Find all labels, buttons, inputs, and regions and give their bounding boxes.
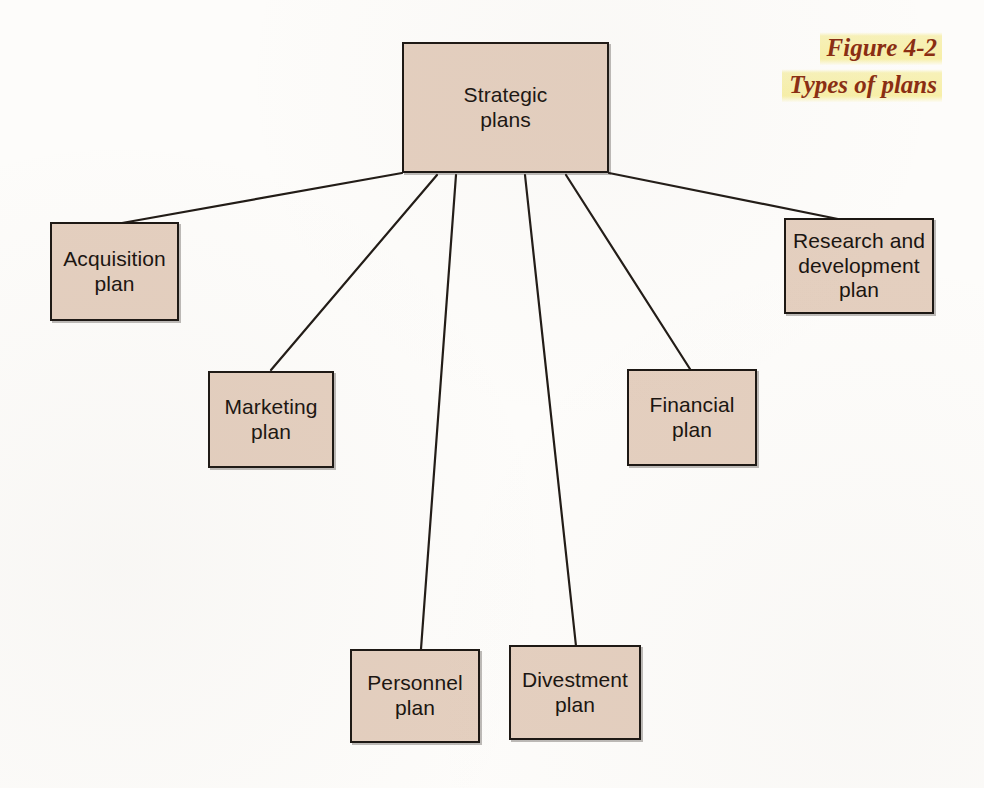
link-acquisition <box>122 173 402 223</box>
node-strategic-plans: Strategic plans <box>402 42 609 173</box>
caption-line-1: Figure 4-2 <box>782 30 942 67</box>
node-label: Acquisition plan <box>58 247 171 297</box>
node-label: Personnel plan <box>362 671 467 721</box>
node-label: Financial plan <box>645 393 740 443</box>
node-personnel-plan: Personnel plan <box>350 649 480 743</box>
link-research-development <box>609 173 838 219</box>
node-label: Research and development plan <box>788 229 930 303</box>
link-financial <box>566 175 690 369</box>
caption-line-2-text: Types of plans <box>782 67 942 104</box>
figure-container: Strategic plans Acquisition plan Marketi… <box>0 0 984 788</box>
node-acquisition-plan: Acquisition plan <box>50 222 179 321</box>
link-divestment <box>525 175 576 646</box>
link-marketing <box>271 175 437 370</box>
node-label: Marketing plan <box>219 395 322 445</box>
caption-line-1-text: Figure 4-2 <box>820 30 942 67</box>
figure-caption: Figure 4-2 Types of plans <box>782 30 942 104</box>
link-personnel <box>421 175 456 649</box>
node-label: Strategic plans <box>459 83 553 133</box>
caption-line-2: Types of plans <box>782 67 942 104</box>
node-research-development-plan: Research and development plan <box>784 218 934 314</box>
node-label: Divestment plan <box>517 668 633 718</box>
node-financial-plan: Financial plan <box>627 369 757 466</box>
node-marketing-plan: Marketing plan <box>208 371 334 468</box>
node-divestment-plan: Divestment plan <box>509 645 641 740</box>
